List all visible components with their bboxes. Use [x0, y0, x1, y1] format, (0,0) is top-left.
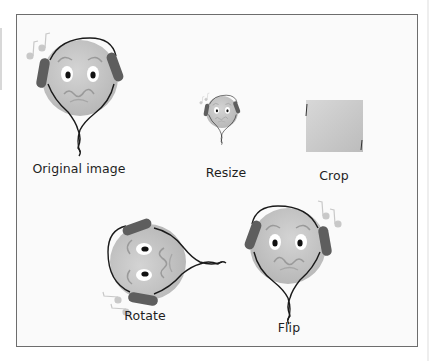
flip-figure	[243, 201, 341, 324]
label-original-image: Original image	[32, 161, 125, 176]
rotate-figure	[103, 217, 226, 315]
label-rotate: Rotate	[124, 308, 166, 323]
crop-figure	[306, 100, 363, 152]
illustration-canvas	[0, 0, 431, 361]
original-image-figure	[27, 33, 125, 156]
label-flip: Flip	[278, 320, 300, 335]
resize-figure	[200, 93, 241, 145]
label-crop: Crop	[319, 168, 349, 183]
label-resize: Resize	[206, 165, 247, 180]
